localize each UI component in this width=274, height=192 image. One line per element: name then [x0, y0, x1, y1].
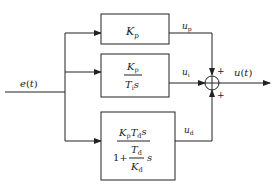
- derivative-block: KpTds 1+ Td Kd s: [101, 112, 175, 180]
- sign-top: +: [217, 66, 225, 76]
- derivative-denominator-s: s: [147, 152, 152, 163]
- pid-block-diagram: e(t) Kp Kp Tis KpTds 1+ Td: [0, 0, 274, 192]
- ud-label: ud: [184, 125, 194, 136]
- ui-label: ui: [182, 67, 190, 78]
- up-label: up: [182, 21, 192, 33]
- proportional-block: Kp: [101, 14, 169, 44]
- sign-bottom: +: [217, 90, 225, 100]
- ud-signal: ud: [175, 90, 212, 141]
- up-line: [169, 33, 212, 75]
- integral-block: Kp Tis: [101, 54, 169, 97]
- output-label: u(t): [234, 67, 252, 78]
- input-label: e(t): [20, 78, 38, 89]
- up-signal: up: [169, 21, 212, 75]
- derivative-one-plus: 1+: [113, 152, 128, 163]
- input-signal: e(t): [5, 78, 65, 92]
- output-signal: u(t): [219, 67, 270, 83]
- ui-signal: ui: [169, 67, 205, 83]
